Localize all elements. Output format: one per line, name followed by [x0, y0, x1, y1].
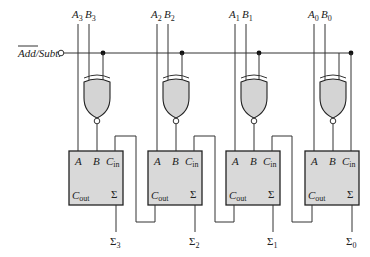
subt-text: /Subt. [35, 47, 61, 59]
input-b-label: B2 [164, 8, 175, 23]
inverter-bubble [173, 118, 179, 124]
box-sum-label: Σ [347, 188, 353, 200]
add-overlined-text: Add [17, 47, 36, 59]
sum-output-label: Σ0 [346, 235, 356, 250]
input-a-label: A1 [228, 8, 240, 23]
add-subt-label: Add/Subt. [17, 46, 61, 59]
box-b-label: B [172, 155, 179, 167]
xor-gate-icon [84, 75, 110, 118]
input-b-label: B1 [242, 8, 253, 23]
box-b-label: B [93, 155, 100, 167]
inverter-bubble [94, 118, 100, 124]
inverter-bubble [251, 118, 257, 124]
xor-gate-icon [163, 75, 189, 118]
adder-subtractor-diagram: Add/Subt. A3 B3 A B Cin Cout Σ Σ3 A2 [0, 0, 370, 257]
control-input-terminal [58, 50, 64, 56]
inverter-bubble [330, 118, 336, 124]
box-b-label: B [329, 155, 336, 167]
xor-gate-icon [320, 75, 346, 118]
input-a-label: A3 [71, 8, 83, 23]
stage-bit-2: A2 B2 A B Cin Cout Σ Σ2 [148, 8, 202, 250]
xor-gate-icon [241, 75, 267, 118]
input-a-label: A2 [150, 8, 162, 23]
input-b-label: B0 [321, 8, 332, 23]
box-sum-label: Σ [268, 188, 274, 200]
sum-output-label: Σ1 [267, 235, 277, 250]
sum-output-label: Σ3 [110, 235, 120, 250]
box-a-label: A [231, 155, 239, 167]
box-a-label: A [310, 155, 318, 167]
input-b-label: B3 [85, 8, 96, 23]
box-a-label: A [153, 155, 161, 167]
stage-bit-3: A3 B3 A B Cin Cout Σ Σ3 [69, 8, 123, 250]
sum-output-label: Σ2 [189, 235, 199, 250]
input-a-label: A0 [307, 8, 319, 23]
box-sum-label: Σ [111, 188, 117, 200]
box-sum-label: Σ [190, 188, 196, 200]
box-b-label: B [250, 155, 257, 167]
box-a-label: A [74, 155, 82, 167]
svg-text:Add/Subt.: Add/Subt. [17, 47, 61, 59]
